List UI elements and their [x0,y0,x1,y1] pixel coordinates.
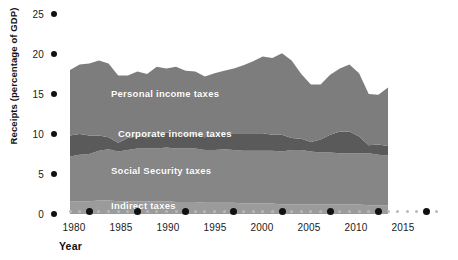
x-axis-major-dot [230,208,237,215]
x-tick-label-2015: 2015 [383,222,423,233]
x-axis-minor-dot [387,210,390,213]
chart-container: Receipts (percentage of GDP) 25 20 15 10… [0,0,458,260]
x-axis-major-dot [134,208,141,215]
x-axis-minor-dot [252,210,255,213]
x-axis-minor-dot [165,210,168,213]
x-axis-minor-dot [126,210,129,213]
x-axis-minor-dot [348,210,351,213]
x-axis-minor-dot [223,210,226,213]
x-tick-label-1995: 1995 [195,222,235,233]
x-axis-minor-dot [406,210,409,213]
x-axis-minor-dot [78,210,81,213]
x-axis-minor-dot [155,210,158,213]
x-axis-minor-dot [146,210,149,213]
x-axis-major-dot [423,208,430,215]
band-label-corporate: Corporate income taxes [118,128,232,139]
x-axis-minor-dot [367,210,370,213]
x-axis-minor-dot [194,210,197,213]
x-axis-major-dot [327,208,334,215]
area-band-social-security-taxes [70,148,388,206]
x-tick-label-2000: 2000 [242,222,282,233]
x-tick-label-2005: 2005 [289,222,329,233]
x-axis-minor-dot [242,210,245,213]
x-axis-major-dot [279,208,286,215]
x-axis-major-dot [86,208,93,215]
x-axis-major-dot [375,208,382,215]
x-tick-label-1980: 1980 [54,222,94,233]
x-axis-minor-dot [271,210,274,213]
x-axis-minor-dot [435,210,438,213]
x-axis-title: Year [59,240,82,252]
x-tick-label-1990: 1990 [148,222,188,233]
x-axis-major-dot [182,208,189,215]
band-label-social: Social Security taxes [111,165,211,176]
x-axis-minor-dot [213,210,216,213]
x-axis-minor-dot [338,210,341,213]
x-axis-minor-dot [358,210,361,213]
x-axis-minor-dot [261,210,264,213]
band-label-personal: Personal income taxes [111,88,219,99]
x-axis-minor-dot [300,210,303,213]
x-axis-minor-dot [117,210,120,213]
x-axis-minor-dot [175,210,178,213]
x-tick-label-2010: 2010 [336,222,376,233]
x-axis-minor-dot [319,210,322,213]
x-axis-minor-dot [69,210,72,213]
x-tick-label-1985: 1985 [101,222,141,233]
x-axis-minor-dot [396,210,399,213]
x-axis-minor-dot [290,210,293,213]
x-axis-minor-dot [107,210,110,213]
